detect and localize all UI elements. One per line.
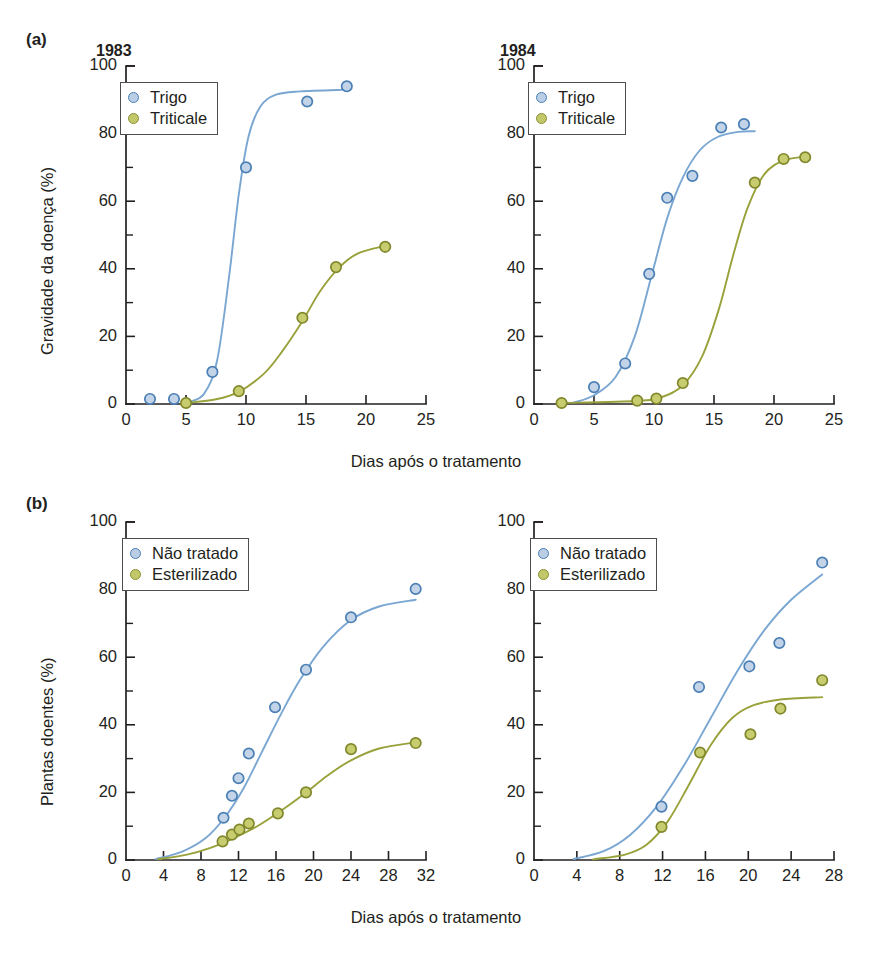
svg-text:40: 40 <box>507 714 525 732</box>
legend-marker-triticale-icon <box>128 113 139 124</box>
svg-text:28: 28 <box>825 866 843 884</box>
svg-text:10: 10 <box>237 410 255 428</box>
legend-label-triticale: Triticale <box>150 110 207 127</box>
svg-text:60: 60 <box>99 191 117 209</box>
svg-text:20: 20 <box>765 410 783 428</box>
svg-text:0: 0 <box>516 393 525 411</box>
legend-item-triticale: Triticale <box>128 108 207 129</box>
panel-b: (b) Plantas doentes (%) 0204060801000481… <box>0 466 872 956</box>
svg-text:8: 8 <box>196 866 205 884</box>
svg-text:12: 12 <box>229 866 247 884</box>
svg-text:20: 20 <box>99 782 117 800</box>
legend-marker-trigo-icon <box>128 92 139 103</box>
panel-a: (a) 1983 1984 Gravidade da doença (%) 02… <box>0 0 872 490</box>
svg-text:0: 0 <box>529 866 538 884</box>
svg-text:20: 20 <box>507 326 525 344</box>
svg-text:20: 20 <box>304 866 322 884</box>
svg-text:80: 80 <box>507 123 525 141</box>
svg-text:12: 12 <box>653 866 671 884</box>
svg-text:10: 10 <box>645 410 663 428</box>
svg-text:16: 16 <box>267 866 285 884</box>
legend-label-trigo: Trigo <box>150 89 187 106</box>
legend-a-left: Trigo Triticale <box>120 82 218 135</box>
svg-text:4: 4 <box>159 866 168 884</box>
svg-text:16: 16 <box>696 866 714 884</box>
svg-text:5: 5 <box>589 410 598 428</box>
legend-marker-esterilizado-icon <box>130 569 141 580</box>
legend-label-triticale: Triticale <box>558 110 615 127</box>
svg-text:20: 20 <box>507 782 525 800</box>
legend-b-left: Não tratado Esterilizado <box>122 538 249 591</box>
legend-item-triticale: Triticale <box>536 108 615 129</box>
svg-text:80: 80 <box>99 123 117 141</box>
legend-item-esterilizado: Esterilizado <box>130 564 238 585</box>
legend-marker-triticale-icon <box>536 113 547 124</box>
svg-text:20: 20 <box>739 866 757 884</box>
y-axis-title-b: Plantas doentes (%) <box>38 657 57 806</box>
svg-text:0: 0 <box>108 393 117 411</box>
svg-text:40: 40 <box>507 258 525 276</box>
svg-text:0: 0 <box>529 410 538 428</box>
svg-text:40: 40 <box>99 258 117 276</box>
legend-label-esterilizado: Esterilizado <box>560 566 645 583</box>
legend-item-nao-tratado: Não tratado <box>538 543 646 564</box>
svg-text:24: 24 <box>342 866 360 884</box>
legend-a-right: Trigo Triticale <box>528 82 626 135</box>
svg-text:0: 0 <box>121 410 130 428</box>
svg-text:25: 25 <box>417 410 435 428</box>
svg-text:28: 28 <box>379 866 397 884</box>
legend-item-trigo: Trigo <box>128 87 207 108</box>
svg-text:8: 8 <box>615 866 624 884</box>
svg-text:0: 0 <box>516 849 525 867</box>
svg-text:25: 25 <box>825 410 843 428</box>
svg-text:40: 40 <box>99 714 117 732</box>
legend-item-nao-tratado: Não tratado <box>130 543 238 564</box>
svg-text:60: 60 <box>507 647 525 665</box>
svg-text:32: 32 <box>417 866 435 884</box>
svg-text:5: 5 <box>181 410 190 428</box>
svg-text:60: 60 <box>99 647 117 665</box>
svg-text:20: 20 <box>99 326 117 344</box>
svg-text:100: 100 <box>497 511 525 529</box>
svg-text:80: 80 <box>507 579 525 597</box>
legend-marker-trigo-icon <box>536 92 547 103</box>
panel-a-tag: (a) <box>26 30 47 50</box>
svg-text:15: 15 <box>705 410 723 428</box>
legend-marker-nao-tratado-icon <box>130 548 141 559</box>
svg-text:60: 60 <box>507 191 525 209</box>
legend-b-right: Não tratado Esterilizado <box>530 538 657 591</box>
svg-text:20: 20 <box>357 410 375 428</box>
svg-text:4: 4 <box>572 866 581 884</box>
legend-item-esterilizado: Esterilizado <box>538 564 646 585</box>
svg-text:80: 80 <box>99 579 117 597</box>
legend-label-nao-tratado: Não tratado <box>152 545 238 562</box>
x-axis-title-b: Dias após o tratamento <box>286 908 586 927</box>
svg-text:15: 15 <box>297 410 315 428</box>
svg-text:100: 100 <box>89 55 117 73</box>
legend-marker-esterilizado-icon <box>538 569 549 580</box>
y-axis-title-a: Gravidade da doença (%) <box>38 167 57 355</box>
legend-item-trigo: Trigo <box>536 87 615 108</box>
svg-text:0: 0 <box>108 849 117 867</box>
legend-label-esterilizado: Esterilizado <box>152 566 237 583</box>
panel-b-tag: (b) <box>26 494 48 514</box>
svg-text:24: 24 <box>782 866 800 884</box>
svg-text:100: 100 <box>497 55 525 73</box>
svg-text:0: 0 <box>121 866 130 884</box>
legend-label-trigo: Trigo <box>558 89 595 106</box>
svg-text:100: 100 <box>89 511 117 529</box>
legend-marker-nao-tratado-icon <box>538 548 549 559</box>
legend-label-nao-tratado: Não tratado <box>560 545 646 562</box>
